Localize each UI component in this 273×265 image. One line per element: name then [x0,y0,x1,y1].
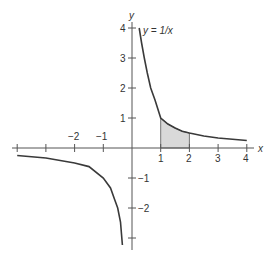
x-tick-label: 3 [215,153,221,164]
y-tick-label: 3 [120,53,126,64]
x-tick-label: 4 [243,153,249,164]
curve-positive-branch [139,28,247,141]
x-tick-label: −2 [68,131,80,142]
y-axis-label: y [128,10,135,21]
x-tick-label: 1 [158,153,164,164]
curve-negative-branch [17,156,122,246]
y-tick-label: 4 [120,23,126,34]
y-tick-label: −2 [138,203,150,214]
y-tick-label: 2 [120,83,126,94]
x-axis-label: x [257,143,264,154]
y-tick-label: 1 [120,113,126,124]
y-tick-label: −1 [138,173,150,184]
x-tick-label: −1 [96,131,108,142]
curve-annotation: y = 1/x [142,25,174,36]
x-tick-label: 2 [186,153,192,164]
reciprocal-function-graph: x y y = 1/x −2 −1 1 2 3 4 4 3 2 1 −1 −2 [0,0,273,265]
